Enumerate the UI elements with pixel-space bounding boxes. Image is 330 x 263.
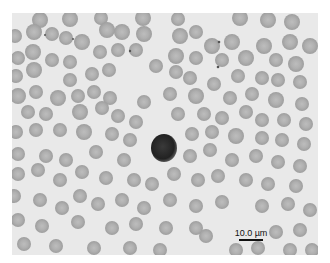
scale-bar-line — [239, 239, 263, 241]
blood-smear-micrograph: 10.0 µm — [12, 13, 318, 255]
scale-bar-label: 10.0 µm — [234, 228, 268, 238]
cells-layer — [12, 13, 318, 255]
leukocyte — [151, 134, 177, 162]
red-blood-cells — [12, 13, 318, 255]
scale-bar: 10.0 µm — [234, 228, 268, 241]
